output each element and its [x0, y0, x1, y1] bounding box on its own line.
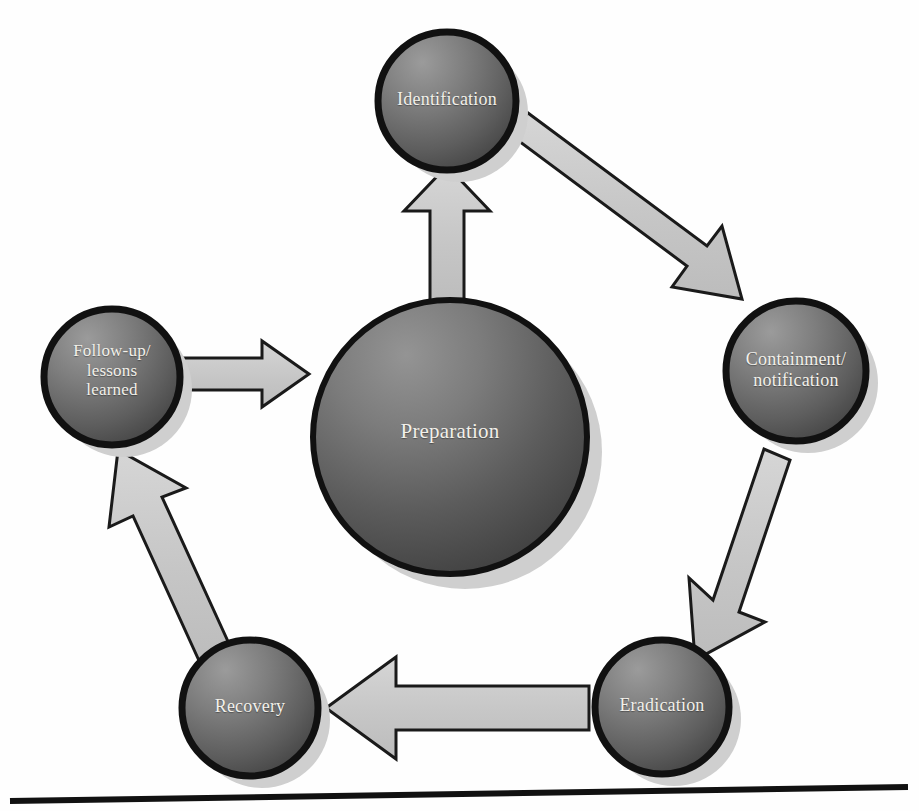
node-eradication[interactable]: [595, 640, 729, 774]
arrow-eradication-to-recovery: [326, 657, 589, 759]
arrow-preparation-to-identification: [404, 166, 490, 306]
node-follow-up-lessons-learned[interactable]: [44, 309, 180, 445]
arrow-identification-to-containment: [508, 113, 742, 299]
diagram-canvas: Preparation Identification Containment/ …: [0, 0, 919, 811]
node-recovery[interactable]: [182, 640, 318, 776]
baseline-rule: [10, 787, 908, 801]
arrow-containment-to-eradication: [689, 449, 790, 660]
node-identification[interactable]: [378, 32, 516, 170]
arrow-recovery-to-follow-up: [109, 450, 231, 665]
arrow-follow-up-to-preparation: [182, 341, 309, 407]
node-preparation[interactable]: [313, 300, 587, 574]
node-containment-notification[interactable]: [726, 301, 866, 441]
